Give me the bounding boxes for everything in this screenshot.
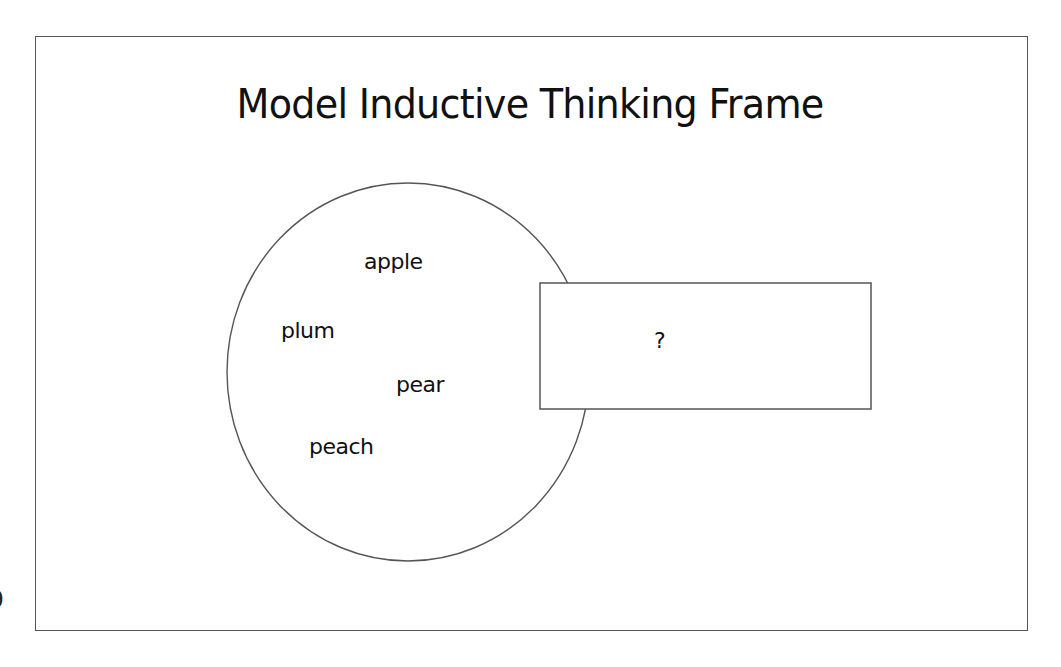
circle-item-peach: peach — [309, 434, 374, 459]
circle-item-pear: pear — [396, 372, 445, 397]
generalization-box — [540, 283, 871, 409]
inductive-thinking-diagram: apple plum pear peach ? — [0, 0, 1061, 667]
circle-item-plum: plum — [281, 318, 334, 343]
generalization-question-mark: ? — [654, 328, 666, 353]
circle-item-apple: apple — [364, 249, 423, 274]
